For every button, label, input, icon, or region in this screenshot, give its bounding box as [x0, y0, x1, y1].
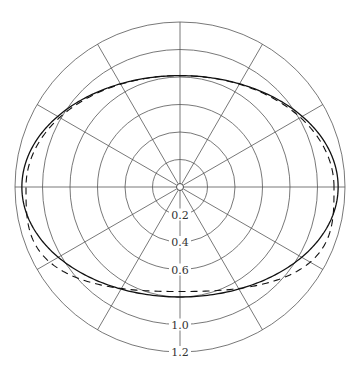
radial-tick-label: 1.2: [171, 346, 189, 359]
radial-tick-label: 0.6: [171, 264, 189, 277]
radial-tick-label: 0.2: [171, 209, 189, 222]
center-marker: [177, 184, 184, 191]
polar-plot-svg: 0.20.40.61.01.2: [0, 0, 359, 367]
radial-tick-label: 1.0: [171, 319, 189, 332]
radial-tick-label: 0.4: [171, 236, 189, 249]
polar-chart: 0.20.40.61.01.2: [0, 0, 359, 367]
